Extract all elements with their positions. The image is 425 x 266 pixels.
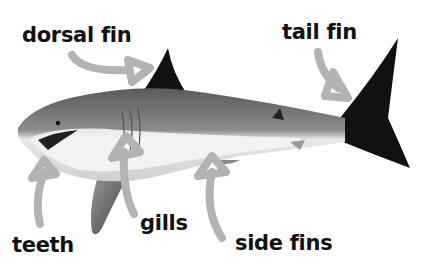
label-teeth: teeth [12, 235, 74, 256]
shark-eye [56, 121, 60, 125]
label-side-fins: side fins [235, 233, 332, 254]
tail-fin [338, 38, 410, 168]
dorsal-fin-arrow [72, 55, 128, 70]
top-text-fragment [140, 0, 158, 6]
label-tail-fin: tail fin [282, 22, 357, 43]
label-gills: gills [140, 213, 188, 234]
side-fins-arrow [210, 172, 222, 238]
label-dorsal-fin: dorsal fin [22, 25, 131, 46]
